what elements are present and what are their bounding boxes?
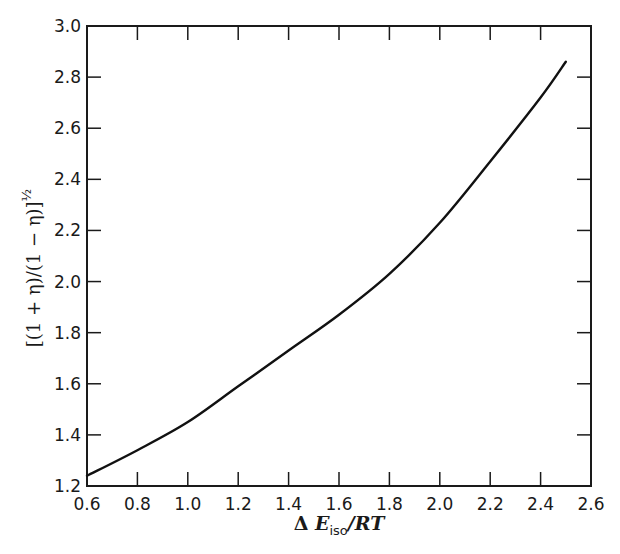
line-chart: 0.60.81.01.21.41.61.82.02.22.42.6 1.21.4…: [0, 0, 620, 554]
y-tick-label: 1.4: [54, 425, 81, 445]
y-tick-label: 2.6: [54, 118, 81, 138]
plot-frame: [87, 26, 591, 486]
x-tick-label: 1.4: [275, 494, 302, 514]
y-axis-tick-labels: 1.21.41.61.82.02.22.42.62.83.0: [54, 16, 81, 496]
x-tick-label: 2.2: [477, 494, 504, 514]
x-tick-label: 2.0: [426, 494, 453, 514]
plot-border: [87, 26, 591, 486]
x-label-variable: E: [314, 512, 330, 534]
x-label-delta: Δ: [294, 512, 315, 534]
y-label-main: [(1 + η)/(1 − η)]: [23, 201, 44, 347]
x-tick-label: 2.4: [527, 494, 554, 514]
y-tick-label: 2.0: [54, 272, 81, 292]
x-label-subscript: iso: [329, 523, 347, 538]
x-tick-label: 1.8: [376, 494, 403, 514]
x-tick-label: 1.0: [174, 494, 201, 514]
x-label-suffix: /RT: [346, 512, 386, 534]
y-tick-label: 2.2: [54, 220, 81, 240]
x-tick-label: 1.2: [225, 494, 252, 514]
x-axis-label: Δ Eiso/RT: [294, 512, 387, 538]
x-axis-ticks: [137, 26, 540, 486]
x-tick-label: 2.6: [577, 494, 604, 514]
y-tick-label: 1.8: [54, 323, 81, 343]
y-tick-label: 2.8: [54, 67, 81, 87]
x-tick-label: 0.8: [124, 494, 151, 514]
y-axis-label: [(1 + η)/(1 − η)]½: [19, 189, 44, 347]
y-tick-label: 1.6: [54, 374, 81, 394]
x-tick-label: 1.6: [325, 494, 352, 514]
y-tick-label: 3.0: [54, 16, 81, 36]
y-label-superscript: ½: [19, 189, 34, 202]
y-tick-label: 2.4: [54, 169, 81, 189]
y-tick-label: 1.2: [54, 476, 81, 496]
data-curve: [87, 62, 566, 476]
x-axis-tick-labels: 0.60.81.01.21.41.61.82.02.22.42.6: [73, 494, 604, 514]
x-tick-label: 0.6: [73, 494, 100, 514]
